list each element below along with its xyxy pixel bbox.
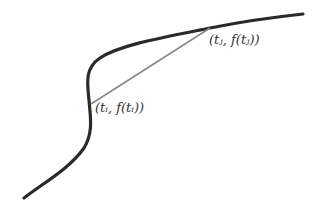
point-label-i: (tᵢ, f(tᵢ)) xyxy=(95,100,144,115)
point-label-j: (tⱼ, f(tⱼ)) xyxy=(209,32,260,47)
diagram-canvas: (tᵢ, f(tᵢ)) (tⱼ, f(tⱼ)) xyxy=(0,0,316,209)
curve-diagram xyxy=(0,0,316,209)
function-curve xyxy=(24,14,303,198)
